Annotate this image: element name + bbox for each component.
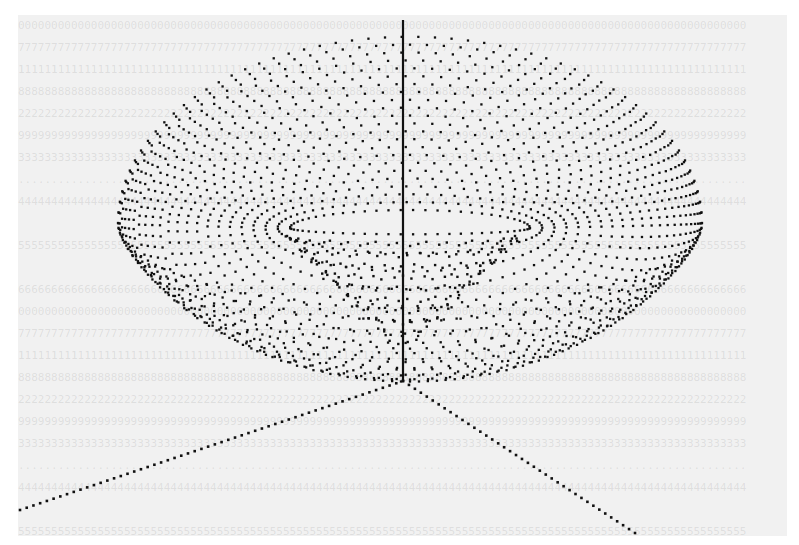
surface-dot-plot: [0, 0, 799, 545]
